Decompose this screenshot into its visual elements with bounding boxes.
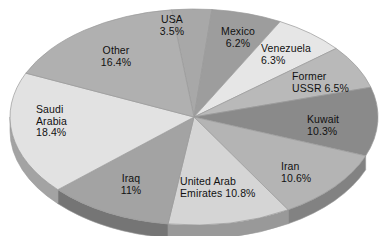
- pie-chart-figure: USA 3.5%Mexico 6.2%Venezuela 6.3%Former …: [0, 0, 386, 236]
- slice-label-other: Other 16.4%: [88, 45, 144, 68]
- slice-label-iran: Iran 10.6%: [281, 161, 311, 184]
- slice-label-usa: USA 3.5%: [146, 14, 198, 37]
- slice-label-iraq: Iraq 11%: [108, 173, 154, 196]
- slice-label-saudi-arabia: Saudi Arabia 18.4%: [36, 104, 67, 139]
- slice-label-former-ussr: Former USSR 6.5%: [292, 71, 349, 94]
- slice-label-united-arab-emirates: United Arab Emirates 10.8%: [180, 176, 256, 199]
- slice-label-kuwait: Kuwait 10.3%: [307, 114, 339, 137]
- slice-label-venezuela: Venezuela 6.3%: [261, 43, 311, 66]
- slice-label-mexico: Mexico 6.2%: [208, 26, 268, 49]
